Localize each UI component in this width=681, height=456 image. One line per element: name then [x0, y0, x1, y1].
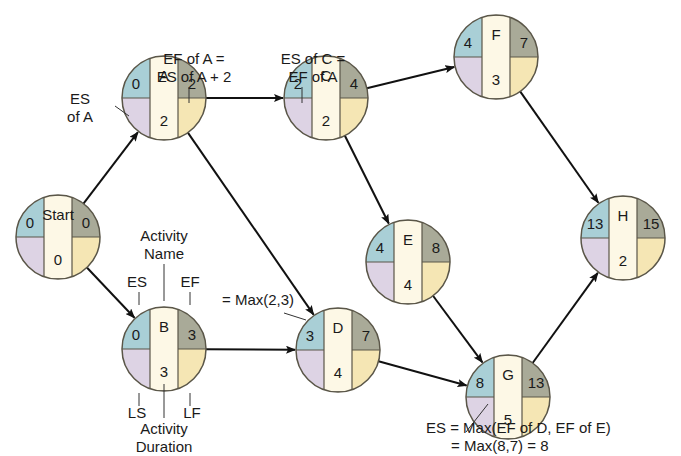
- node-es: 3: [306, 327, 314, 344]
- ef-of-a-label-2: ES of A + 2: [157, 68, 232, 85]
- es-of-a-label-1: ES: [70, 90, 90, 107]
- node-e[interactable]: E484: [366, 220, 450, 304]
- node-name: G: [502, 366, 514, 383]
- es-of-c-label-2: EF of A: [288, 68, 337, 85]
- node-start[interactable]: Start000: [16, 195, 100, 279]
- edge-e-g: [433, 296, 482, 363]
- node-duration: 0: [54, 251, 62, 268]
- legend-activity-name-1: Activity: [140, 227, 188, 244]
- node-duration: 2: [160, 112, 168, 129]
- legend-duration-1: Activity: [140, 420, 188, 437]
- node-duration: 2: [322, 112, 330, 129]
- node-name: Start: [42, 206, 75, 223]
- legend-duration-2: Duration: [136, 438, 193, 455]
- node-duration: 2: [619, 252, 627, 269]
- node-duration: 4: [334, 364, 342, 381]
- edge-d-g: [378, 361, 466, 385]
- max-d-label: = Max(2,3): [222, 291, 294, 308]
- legend-ls: LS: [128, 404, 146, 421]
- edge-c-e: [345, 136, 389, 224]
- node-es: 4: [464, 34, 472, 51]
- es-g-label-1: ES = Max(EF of D, EF of E): [426, 419, 611, 436]
- legend-es: ES: [127, 273, 147, 290]
- edge-g-h: [533, 273, 598, 363]
- nodes: Start000A022B033C242D374E484F473G8135H13…: [16, 15, 665, 439]
- node-duration: 3: [160, 363, 168, 380]
- node-b[interactable]: B033: [122, 307, 206, 391]
- legend-lf: LF: [183, 404, 201, 421]
- node-duration: 3: [492, 71, 500, 88]
- es-of-a-label-2: of A: [67, 108, 93, 125]
- node-name: B: [159, 318, 169, 335]
- node-ef: 3: [188, 326, 196, 343]
- node-ef: 7: [362, 327, 370, 344]
- node-h[interactable]: H13152: [581, 196, 665, 280]
- node-duration: 4: [404, 276, 412, 293]
- edge-a-d: [188, 133, 314, 315]
- node-ef: 13: [528, 374, 545, 391]
- node-es: 4: [376, 239, 384, 256]
- node-name: F: [491, 26, 500, 43]
- node-es: 0: [132, 326, 140, 343]
- node-es: 13: [587, 215, 604, 232]
- node-d[interactable]: D374: [296, 308, 380, 392]
- node-name: E: [403, 231, 413, 248]
- edge-b-d: [206, 349, 295, 350]
- network-diagram: Start000A022B033C242D374E484F473G8135H13…: [0, 0, 681, 456]
- es-g-label-2: = Max(8,7) = 8: [451, 437, 549, 454]
- node-ef: 4: [350, 75, 358, 92]
- node-es: 8: [476, 374, 484, 391]
- node-f[interactable]: F473: [454, 15, 538, 99]
- legend-activity-name-2: Name: [144, 245, 184, 262]
- node-es: 0: [26, 214, 34, 231]
- node-ef: 7: [520, 34, 528, 51]
- edge-start-a: [83, 132, 137, 203]
- node-name: D: [333, 319, 344, 336]
- legend-ef: EF: [180, 273, 199, 290]
- node-es: 0: [132, 75, 140, 92]
- edge-f-h: [520, 91, 598, 202]
- node-ef: 8: [432, 239, 440, 256]
- ef-of-a-label-1: EF of A =: [163, 50, 225, 67]
- node-ef: 0: [82, 214, 90, 231]
- node-ef: 15: [643, 215, 660, 232]
- edge-c-f: [367, 67, 454, 88]
- es-of-c-label-1: ES of C =: [281, 50, 346, 67]
- node-name: H: [618, 207, 629, 224]
